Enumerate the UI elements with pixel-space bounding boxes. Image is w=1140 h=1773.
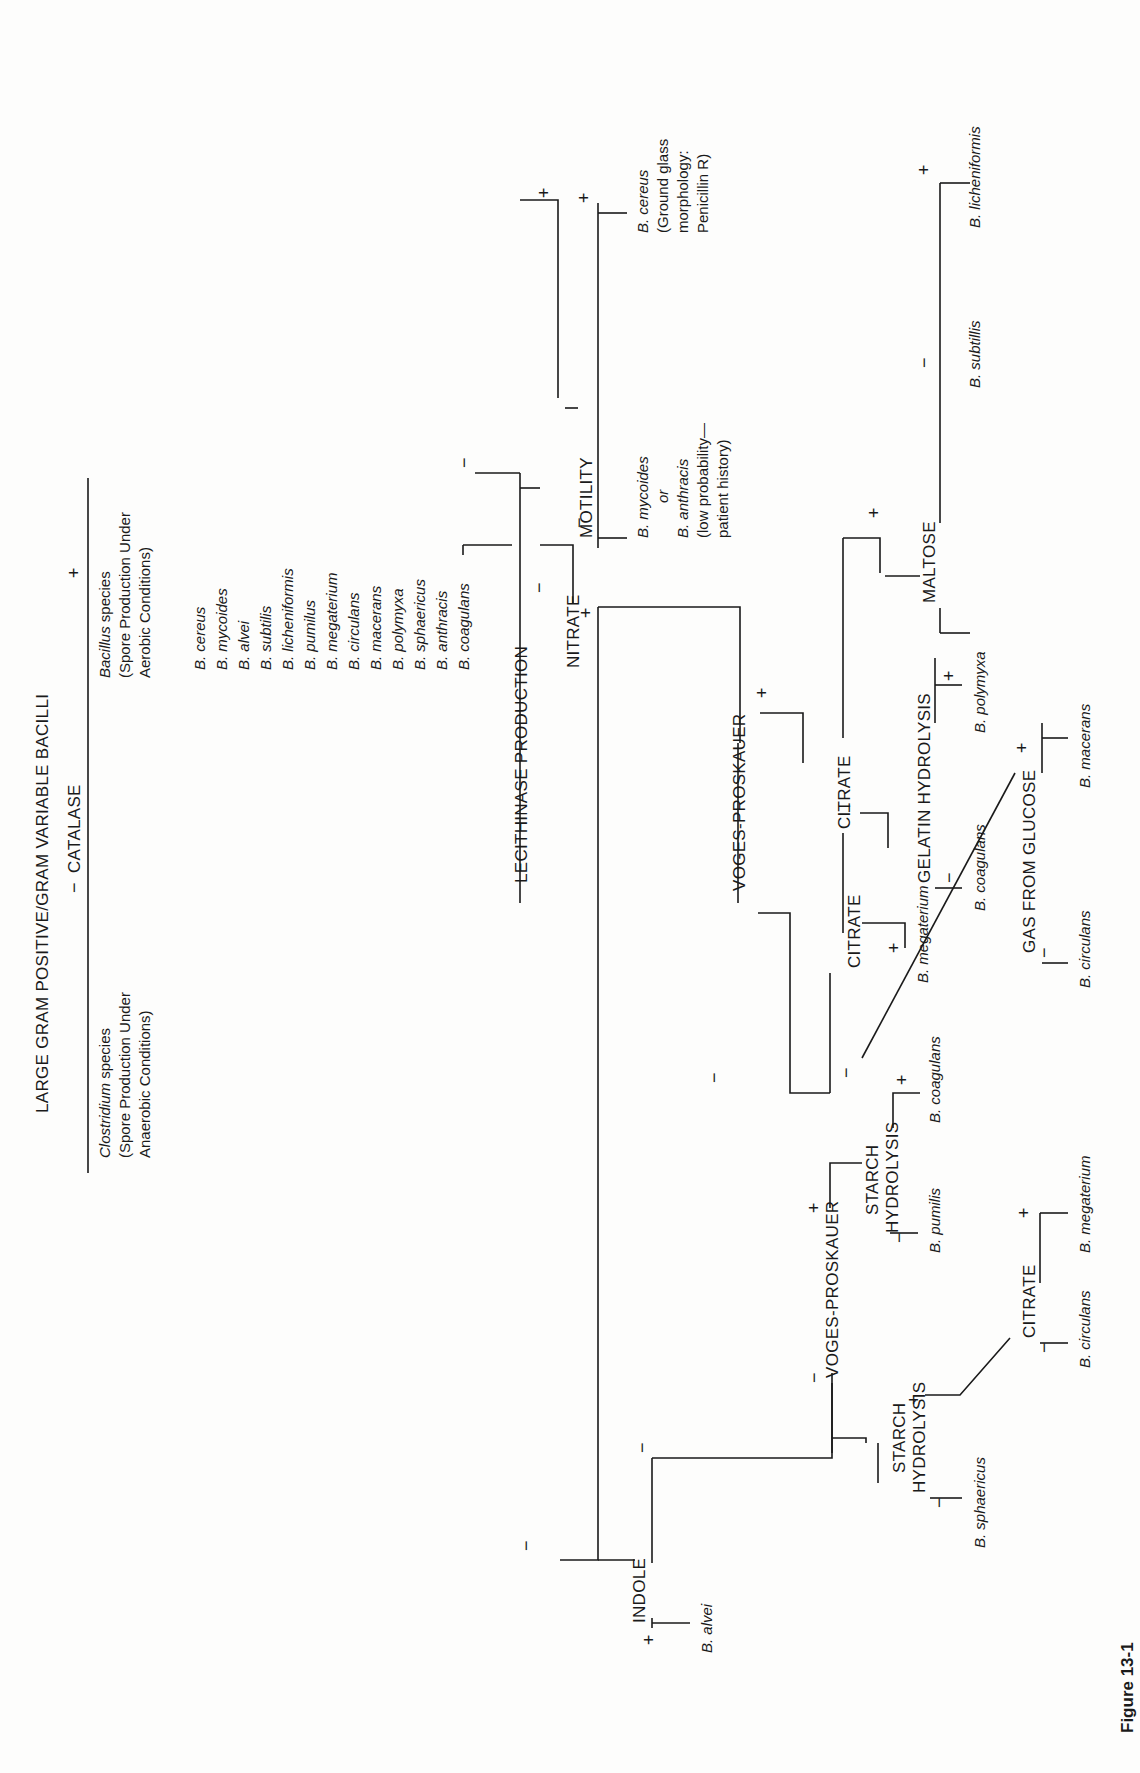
nitrate-vp-positive-branch bbox=[760, 713, 803, 763]
svg-text:Penicillin R): Penicillin R) bbox=[694, 154, 711, 233]
gelatin-test-label: GELATIN HYDROLYSIS bbox=[915, 693, 934, 883]
figure-title: LARGE GRAM POSITIVE/GRAM VARIABLE BACILL… bbox=[33, 694, 52, 1113]
gelatin-positive-result: B. polymyxa bbox=[971, 651, 988, 733]
svg-text:Aerobic Conditions): Aerobic Conditions) bbox=[136, 547, 153, 678]
gas-glucose-negative-sign: − bbox=[1034, 947, 1054, 958]
starch-vp-pos-positive-result: B. coagulans bbox=[926, 1036, 943, 1123]
indole-vp-negative-sign: − bbox=[804, 1372, 824, 1383]
gas-glucose-positive-result: B. macerans bbox=[1076, 703, 1093, 788]
figure-label: Figure 13-1 bbox=[1118, 1642, 1137, 1733]
flowchart-stage: LARGE GRAM POSITIVE/GRAM VARIABLE BACILL… bbox=[0, 0, 1140, 1773]
svg-text:B. anthracis: B. anthracis bbox=[433, 590, 450, 670]
svg-text:B. sphaericus: B. sphaericus bbox=[411, 579, 428, 670]
starch-citrate-test-label: CITRATE bbox=[1020, 1264, 1039, 1338]
gas-glucose-positive-sign: + bbox=[1012, 742, 1032, 753]
svg-text:B. mycoides: B. mycoides bbox=[634, 456, 651, 538]
starch-vp-pos-line2: HYDROLYSIS bbox=[883, 1122, 902, 1233]
vp-neg-citrate-test-label: CITRATE bbox=[845, 894, 864, 968]
svg-text:(Spore Production Under: (Spore Production Under bbox=[116, 992, 133, 1158]
svg-text:(Ground glass: (Ground glass bbox=[654, 139, 671, 233]
motility-positive-sign: + bbox=[574, 192, 594, 203]
indole-vp-positive-sign: + bbox=[804, 1202, 824, 1213]
indole-test-label: INDOLE bbox=[630, 1558, 649, 1623]
nitrate-positive-sign: + bbox=[576, 607, 596, 618]
svg-text:B. megaterium: B. megaterium bbox=[323, 572, 340, 670]
vp-pos-citrate-positive-branch bbox=[843, 538, 880, 573]
indole-vp-negative-branch bbox=[832, 1438, 866, 1443]
vp-pos-citrate-test-label: CITRATE bbox=[835, 755, 854, 829]
starch-citrate-negative-sign: − bbox=[1034, 1342, 1054, 1353]
nitrate-test-label: NITRATE bbox=[564, 594, 583, 668]
svg-text:patient history): patient history) bbox=[714, 440, 731, 538]
catalase-negative-result: Clostridium species (Spore Production Un… bbox=[96, 992, 153, 1158]
maltose-negative-sign: − bbox=[914, 357, 934, 368]
lecithinase-positive-branch bbox=[520, 200, 558, 398]
maltose-positive-result: B. licheniformis bbox=[966, 126, 983, 228]
nitrate-vp-positive-sign: + bbox=[752, 687, 772, 698]
svg-text:B. macerans: B. macerans bbox=[367, 585, 384, 670]
identification-flowchart: LARGE GRAM POSITIVE/GRAM VARIABLE BACILL… bbox=[0, 0, 1140, 1773]
vp-pos-citrate-negative-branch bbox=[860, 813, 888, 848]
indole-vp-test-label: VOGES-PROSKAUER bbox=[823, 1201, 842, 1378]
catalase-test-label: CATALASE bbox=[65, 784, 84, 873]
catalase-negative-sign: − bbox=[64, 882, 84, 893]
maltose-test-label: MALTOSE bbox=[920, 521, 939, 603]
svg-text:Anaerobic Conditions): Anaerobic Conditions) bbox=[136, 1010, 153, 1158]
starch-vp-neg-line1: STARCH bbox=[890, 1403, 909, 1473]
svg-text:B. circulans: B. circulans bbox=[345, 592, 362, 670]
svg-text:B. coagulans: B. coagulans bbox=[455, 583, 472, 670]
maltose-positive-sign: + bbox=[914, 164, 934, 175]
bacillus-species-list: B. cereus B. mycoides B. alvei B. subtil… bbox=[191, 568, 472, 670]
starch-citrate-positive-sign: + bbox=[1014, 1207, 1034, 1218]
svg-text:morphology:: morphology: bbox=[674, 150, 691, 233]
svg-text:B. subtilis: B. subtilis bbox=[257, 605, 274, 670]
starch-vp-pos-line1: STARCH bbox=[863, 1145, 882, 1215]
svg-text:(low probability—: (low probability— bbox=[694, 423, 711, 538]
svg-text:B. mycoides: B. mycoides bbox=[213, 588, 230, 670]
vp-neg-citrate-negative-sign: − bbox=[836, 1067, 856, 1078]
indole-positive-sign: + bbox=[639, 1634, 659, 1645]
lecithinase-negative-sign: − bbox=[454, 457, 474, 468]
catalase-positive-result: Bacillus species (Spore Production Under… bbox=[96, 512, 153, 678]
svg-text:B. cereus: B. cereus bbox=[634, 169, 651, 233]
svg-text:B. alvei: B. alvei bbox=[235, 620, 252, 670]
nitrate-positive-branch bbox=[598, 607, 740, 743]
lecithinase-positive-sign: + bbox=[534, 187, 554, 198]
svg-text:Clostridium species: Clostridium species bbox=[96, 1028, 113, 1158]
catalase-positive-sign: + bbox=[64, 567, 84, 578]
vp-pos-citrate-positive-sign: + bbox=[864, 507, 884, 518]
motility-negative-sign: − bbox=[569, 517, 589, 528]
motility-positive-result: B. cereus (Ground glass morphology: Peni… bbox=[634, 139, 711, 233]
starch-vp-pos-negative-result: B. pumilis bbox=[926, 1187, 943, 1253]
starch-vp-neg-positive-branch bbox=[925, 1338, 1010, 1395]
starch-vp-neg-negative-sign: − bbox=[929, 1497, 949, 1508]
gelatin-negative-result: B. coagulans bbox=[971, 824, 988, 911]
svg-text:or: or bbox=[654, 489, 671, 503]
starch-vp-pos-positive-sign: + bbox=[892, 1074, 912, 1085]
indole-negative-sign: − bbox=[632, 1442, 652, 1453]
gas-glucose-negative-result: B. circulans bbox=[1076, 910, 1093, 988]
nitrate-vp-negative-sign: − bbox=[704, 1072, 724, 1083]
starch-citrate-negative-result: B. circulans bbox=[1076, 1290, 1093, 1368]
nitrate-vp-test-label: VOGES-PROSKAUER bbox=[730, 714, 749, 891]
vp-neg-citrate-diagonal bbox=[862, 773, 1015, 1058]
vp-neg-citrate-positive-sign: + bbox=[884, 942, 904, 953]
motility-negative-result: B. mycoides or B. anthracis (low probabi… bbox=[634, 423, 731, 538]
indole-positive-result: B. alvei bbox=[698, 1603, 715, 1653]
indole-negative-branch bbox=[652, 1373, 832, 1458]
nitrate-stem-negative-sign: − bbox=[529, 582, 549, 593]
starch-vp-pos-negative-sign: − bbox=[889, 1232, 909, 1243]
nitrate-negative-sign: − bbox=[516, 1540, 536, 1551]
svg-text:B. polymyxa: B. polymyxa bbox=[389, 588, 406, 670]
svg-text:B. cereus: B. cereus bbox=[191, 606, 208, 670]
svg-text:Bacillus species: Bacillus species bbox=[96, 571, 113, 678]
svg-text:B. licheniformis: B. licheniformis bbox=[279, 568, 296, 670]
nitrate-negative-branch bbox=[560, 1173, 598, 1560]
gas-glucose-test-label: GAS FROM GLUCOSE bbox=[1020, 770, 1039, 953]
svg-text:B. pumilus: B. pumilus bbox=[301, 599, 318, 670]
svg-text:B. anthracis: B. anthracis bbox=[674, 458, 691, 538]
gelatin-positive-sign: + bbox=[939, 670, 959, 681]
svg-text:(Spore Production Under: (Spore Production Under bbox=[116, 512, 133, 678]
starch-vp-neg-positive-sign: + bbox=[904, 1394, 924, 1405]
maltose-negative-result: B. subtillis bbox=[966, 320, 983, 388]
